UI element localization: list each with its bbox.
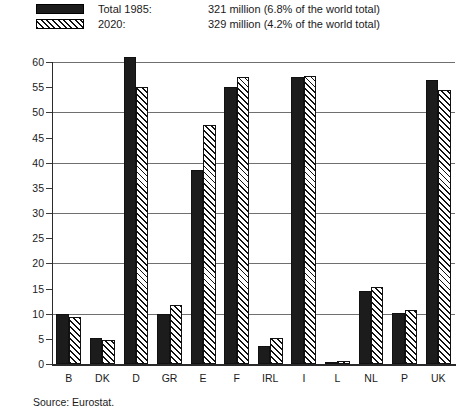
solid-black-swatch: [36, 4, 84, 14]
bar-group: [258, 62, 283, 364]
bar-group: [157, 62, 182, 364]
bar-nl-1985: [359, 291, 371, 364]
bar-group: [191, 62, 216, 364]
bar-group: [224, 62, 249, 364]
plot-area: [52, 62, 455, 364]
bar-dk-1985: [90, 338, 102, 364]
bar-p-2020: [405, 310, 417, 364]
bar-uk-2020: [438, 90, 450, 364]
legend-row: 2020: 329 million (4.2% of the world tot…: [36, 17, 456, 30]
bar-uk-1985: [426, 80, 438, 364]
x-axis-tick-label: NL: [364, 372, 377, 384]
source-note: Source: Eurostat.: [33, 396, 114, 408]
y-axis-tick-label: 35: [4, 183, 44, 194]
y-axis-tick: [46, 62, 52, 63]
y-axis-tick-label: 60: [4, 57, 44, 68]
bar-f-2020: [237, 77, 249, 364]
x-axis-tick-label: IRL: [262, 372, 278, 384]
y-axis-tick: [46, 289, 52, 290]
y-axis-tick: [46, 188, 52, 189]
x-axis-tick-label: E: [200, 372, 207, 384]
y-axis-tick: [46, 314, 52, 315]
y-axis-tick-label: 0: [4, 359, 44, 370]
y-axis-tick: [46, 364, 52, 365]
bar-e-2020: [203, 125, 215, 364]
bar-d-1985: [124, 57, 136, 364]
bar-d-2020: [136, 87, 148, 364]
legend-item-value: 321 million (6.8% of the world total): [208, 3, 380, 15]
y-axis-line: [52, 62, 53, 365]
bar-group: [325, 62, 350, 364]
x-axis-tick-label: D: [132, 372, 140, 384]
bar-b-1985: [56, 314, 68, 364]
y-axis-tick: [46, 112, 52, 113]
y-axis-tick-label: 50: [4, 107, 44, 118]
bar-irl-1985: [258, 346, 270, 364]
bar-gr-1985: [157, 314, 169, 364]
x-axis-tick-label: B: [65, 372, 72, 384]
y-axis-tick: [46, 263, 52, 264]
bar-f-1985: [224, 87, 236, 364]
x-axis-tick-label: DK: [95, 372, 110, 384]
y-axis-labels: 051015202530354045505560: [0, 46, 44, 386]
bar-i-1985: [291, 77, 303, 364]
y-axis-tick: [46, 87, 52, 88]
bar-group: [392, 62, 417, 364]
x-axis-tick-label: GR: [162, 372, 178, 384]
x-axis-tick-label: P: [401, 372, 408, 384]
bar-group: [359, 62, 384, 364]
x-axis-tick-label: L: [335, 372, 341, 384]
bar-chart: 051015202530354045505560 BDKDGREFIRLILNL…: [0, 46, 464, 386]
legend-item-label: Total 1985:: [98, 3, 208, 15]
y-axis-tick-label: 20: [4, 258, 44, 269]
x-axis-tick-label: I: [302, 372, 305, 384]
y-axis-tick: [46, 213, 52, 214]
y-axis-tick-label: 10: [4, 308, 44, 319]
hatched-swatch: [36, 19, 84, 29]
legend-row: Total 1985: 321 million (6.8% of the wor…: [36, 2, 456, 15]
bar-i-2020: [304, 76, 316, 364]
y-axis-tick-label: 25: [4, 233, 44, 244]
bar-group: [124, 62, 149, 364]
bar-group: [90, 62, 115, 364]
legend-item-label: 2020:: [98, 18, 208, 30]
y-axis-tick: [46, 138, 52, 139]
bar-group: [56, 62, 81, 364]
y-axis-tick: [46, 339, 52, 340]
chart-legend: Total 1985: 321 million (6.8% of the wor…: [36, 2, 456, 32]
y-axis-tick-label: 5: [4, 334, 44, 345]
bar-irl-2020: [270, 338, 282, 364]
bar-dk-2020: [102, 340, 114, 364]
y-axis-tick: [46, 163, 52, 164]
bar-p-1985: [392, 313, 404, 364]
bar-gr-2020: [170, 305, 182, 364]
bar-nl-2020: [371, 287, 383, 364]
y-axis-tick-label: 15: [4, 283, 44, 294]
x-axis-line: [52, 364, 456, 366]
bar-e-1985: [191, 170, 203, 364]
x-axis-tick-label: UK: [431, 372, 446, 384]
y-axis-tick-label: 30: [4, 208, 44, 219]
y-axis-tick-label: 40: [4, 157, 44, 168]
y-axis-tick: [46, 238, 52, 239]
bar-group: [291, 62, 316, 364]
bar-b-2020: [69, 317, 81, 364]
bar-group: [426, 62, 451, 364]
legend-item-value: 329 million (4.2% of the world total): [208, 18, 380, 30]
y-axis-tick-label: 55: [4, 82, 44, 93]
y-axis-tick-label: 45: [4, 132, 44, 143]
x-axis-tick-label: F: [233, 372, 239, 384]
